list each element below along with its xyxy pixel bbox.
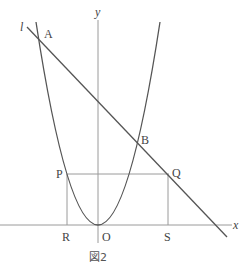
point-r-label: R — [62, 230, 70, 244]
figure-2-diagram: l A y B P Q R O S x 図2 — [0, 0, 250, 280]
x-axis-label: x — [232, 218, 239, 232]
point-s-label: S — [164, 230, 171, 244]
point-a-label: A — [44, 27, 53, 41]
figure-caption: 図2 — [89, 251, 107, 264]
y-axis-label: y — [94, 5, 101, 19]
point-b-label: B — [141, 133, 149, 147]
point-q-label: Q — [172, 166, 181, 180]
point-p-label: P — [56, 167, 63, 181]
line-l — [27, 27, 227, 237]
line-l-label: l — [20, 20, 24, 34]
origin-label: O — [102, 230, 111, 244]
